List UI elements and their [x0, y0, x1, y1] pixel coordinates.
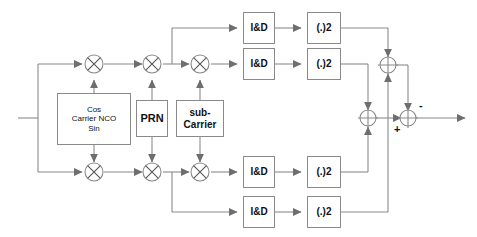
integrate-dump-label-4: I&D: [250, 206, 267, 218]
squarer-label-1: (.)2: [317, 22, 332, 34]
sub-carrier-label-line2: Carrier: [184, 119, 217, 131]
adder-output-plus-sign: +: [394, 124, 400, 135]
adder-output-minus-sign: -: [419, 100, 423, 111]
diagram-canvas: Cos Carrier NCO Sin PRN sub- Carrier I&D…: [0, 0, 477, 237]
integrate-dump-label-3: I&D: [250, 166, 267, 178]
squarer-label-3: (.)2: [317, 166, 332, 178]
carrier-nco-block[interactable]: Cos Carrier NCO Sin: [57, 93, 131, 145]
integrate-dump-label-2: I&D: [250, 58, 267, 70]
squarer-label-2: (.)2: [317, 58, 332, 70]
integrate-dump-block-2[interactable]: I&D: [243, 48, 275, 80]
prn-label: PRN: [140, 112, 163, 125]
integrate-dump-block-3[interactable]: I&D: [243, 156, 275, 188]
carrier-nco-title-label: Carrier NCO: [72, 114, 116, 123]
integrate-dump-label-1: I&D: [250, 22, 267, 34]
integrate-dump-block-1[interactable]: I&D: [243, 12, 275, 44]
squarer-block-2[interactable]: (.)2: [307, 48, 341, 80]
squarer-block-1[interactable]: (.)2: [307, 12, 341, 44]
prn-block[interactable]: PRN: [136, 100, 168, 137]
squarer-block-3[interactable]: (.)2: [307, 156, 341, 188]
carrier-nco-cos-label: Cos: [87, 105, 101, 114]
carrier-nco-sin-label: Sin: [88, 124, 100, 133]
squarer-label-4: (.)2: [317, 206, 332, 218]
sub-carrier-label-line1: sub-: [189, 107, 210, 119]
integrate-dump-block-4[interactable]: I&D: [243, 196, 275, 228]
squarer-block-4[interactable]: (.)2: [307, 196, 341, 228]
sub-carrier-block[interactable]: sub- Carrier: [176, 100, 224, 137]
